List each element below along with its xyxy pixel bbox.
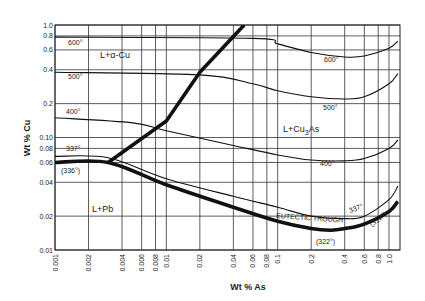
isotherm-label-600-left: 600°	[68, 39, 83, 46]
x-axis-label: Wt % As	[230, 282, 266, 292]
y-tick-label: 0.10	[39, 134, 53, 141]
y-tick-label: 0.2	[43, 100, 53, 107]
x-tick-label: 0.01	[163, 254, 170, 268]
isotherm-label-337-left: 337°	[66, 145, 81, 152]
x-tick-label: 1.0	[386, 254, 393, 264]
boundary-line	[108, 25, 244, 162]
y-tick-label: 0.8	[43, 32, 53, 39]
x-axis-ticks: 0.0010.0020.0040.0060.0080.010.020.040.0…	[52, 254, 393, 272]
x-tick-label: 0.008	[152, 254, 159, 272]
isotherm-label-400-left: 400°	[66, 108, 81, 115]
isotherm-label-500-right: 500°	[323, 104, 338, 111]
x-tick-label: 0.006	[138, 254, 145, 272]
y-tick-label: 1.0	[43, 22, 53, 29]
x-tick-label: 0.6	[361, 254, 368, 264]
x-tick-label: 0.002	[85, 254, 92, 272]
y-tick-label: 0.01	[39, 247, 53, 254]
x-tick-label: 0.8	[375, 254, 382, 264]
x-tick-label: 0.06	[249, 254, 256, 268]
phase-diagram-chart: 0.010.020.040.060.080.100.20.40.60.81.0 …	[0, 0, 425, 301]
isotherm-label-500-left: 500°	[68, 73, 83, 80]
region-label-cu3as: L+Cu3As	[283, 124, 320, 136]
y-tick-label: 0.08	[39, 145, 53, 152]
y-axis-label: Wt % Cu	[22, 120, 32, 157]
isotherm-label-337-right: 337°	[348, 202, 364, 214]
y-tick-label: 0.06	[39, 159, 53, 166]
x-tick-label: 0.08	[263, 254, 270, 268]
region-label-pb: L+Pb	[92, 204, 113, 214]
isotherm-label-600-right: 600°	[324, 56, 339, 63]
x-tick-label: 0.1	[274, 254, 281, 264]
annotation-322: (322°)	[316, 238, 335, 246]
y-tick-label: 0.04	[39, 179, 53, 186]
y-tick-label: 0.4	[43, 66, 53, 73]
x-tick-label: 0.004	[119, 254, 126, 272]
x-tick-label: 0.04	[230, 254, 237, 268]
y-axis-ticks: 0.010.020.040.060.080.100.20.40.60.81.0	[39, 22, 53, 254]
boundary-line	[55, 161, 398, 230]
x-tick-label: 0.001	[52, 254, 59, 272]
isotherm-line	[55, 118, 398, 161]
x-tick-label: 0.2	[308, 254, 315, 264]
isotherm-line	[55, 72, 398, 99]
x-tick-label: 0.4	[341, 254, 348, 264]
annotation-336: (336°)	[61, 167, 80, 175]
isotherm-label-400-right: 400°	[320, 160, 335, 167]
x-tick-label: 0.02	[196, 254, 203, 268]
y-tick-label: 0.6	[43, 46, 53, 53]
y-tick-label: 0.02	[39, 213, 53, 220]
region-label-alpha-cu: L+α-Cu	[100, 50, 130, 60]
